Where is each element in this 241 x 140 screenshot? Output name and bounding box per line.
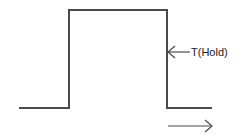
hold-label: T(Hold) [191, 46, 228, 58]
time-direction-arrow [168, 120, 212, 132]
pulse-waveform [19, 10, 212, 108]
pulse-diagram: T(Hold) [0, 0, 241, 140]
hold-annotation-arrow [168, 46, 190, 58]
